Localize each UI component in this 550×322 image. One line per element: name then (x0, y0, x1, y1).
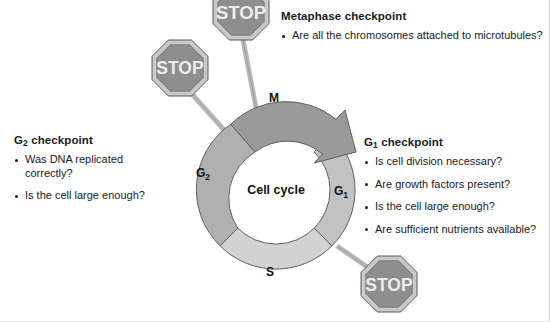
list-item: Is cell division necessary? (364, 155, 550, 169)
stop-sign-g2: STOP (152, 40, 208, 96)
stop-sign-metaphase: STOP (213, 0, 269, 40)
checkpoint-block-metaphase: Metaphase checkpoint Are all the chromos… (281, 10, 547, 43)
checkpoint-g2-list: Was DNA replicated correctly? Is the cel… (14, 153, 179, 203)
checkpoint-block-g2: G2 checkpoint Was DNA replicated correct… (14, 134, 179, 203)
checkpoint-g2-title: G2 checkpoint (14, 134, 179, 146)
checkpoint-g1-title: G1 checkpoint (364, 136, 550, 148)
stop-sign-g1: STOP (361, 256, 417, 312)
phase-label-s: S (266, 265, 274, 279)
phase-label-m: M (269, 91, 279, 105)
list-item: Is the cell large enough? (364, 200, 550, 214)
checkpoint-metaphase-title: Metaphase checkpoint (281, 10, 547, 22)
list-item: Was DNA replicated correctly? (14, 153, 179, 180)
stop-sign-metaphase-label: STOP (216, 2, 266, 23)
ring-segment-s (220, 228, 332, 269)
list-item: Are growth factors present? (364, 178, 550, 192)
list-item: Are sufficient nutrients available? (364, 223, 550, 237)
cell-cycle-center-label: Cell cycle (247, 183, 305, 197)
list-item: Is the cell large enough? (14, 189, 179, 203)
checkpoint-metaphase-list: Are all the chromosomes attached to micr… (281, 29, 547, 43)
list-item: Are all the chromosomes attached to micr… (281, 29, 547, 43)
stop-sign-g1-label: STOP (365, 275, 413, 295)
stop-sign-g2-label: STOP (156, 58, 204, 78)
checkpoint-g1-list: Is cell division necessary? Are growth f… (364, 155, 550, 236)
checkpoint-block-g1: G1 checkpoint Is cell division necessary… (364, 136, 550, 236)
cell-cycle-figure: M G2 G1 S Cell cycle STOP STOP STOP G2 c… (0, 0, 550, 322)
